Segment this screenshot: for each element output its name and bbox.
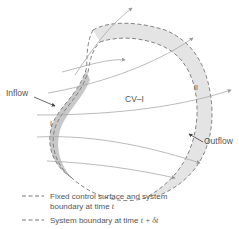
dashed-line-swatch-icon — [22, 216, 44, 224]
region-i-label: I — [50, 120, 52, 127]
region-ii-label: II — [194, 84, 198, 91]
inflow-label: Inflow — [6, 88, 28, 98]
outflow-label: Outflow — [204, 136, 233, 146]
region-ii-shading — [93, 23, 212, 198]
inflow-pointer — [34, 97, 55, 106]
legend-fixed-surface: Fixed control surface and system boundar… — [22, 192, 167, 212]
legend-system-boundary: System boundary at time t + δt — [22, 216, 158, 226]
cv-label: CV–I — [125, 94, 144, 104]
system-boundary-later — [93, 23, 212, 195]
dashed-line-swatch-icon — [22, 192, 44, 200]
